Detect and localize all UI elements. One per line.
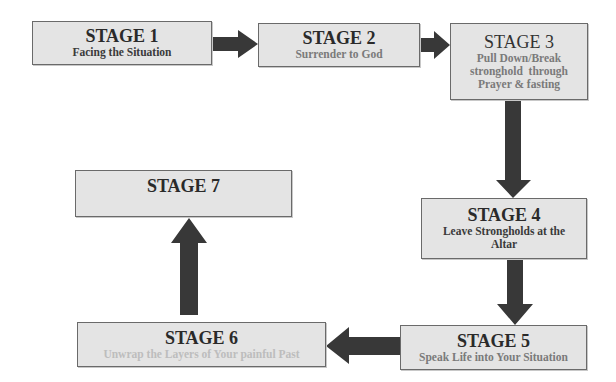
stage-4-title: STAGE 4 <box>467 206 540 225</box>
stage-1-subtitle: Facing the Situation <box>72 46 171 59</box>
stage-3-box: STAGE 3 Pull Down/Break stronghold throu… <box>450 23 588 100</box>
stage-2-title: STAGE 2 <box>302 29 375 48</box>
stage-2-subtitle: Surrender to God <box>295 48 382 61</box>
stage-5-box: STAGE 5 Speak Life into Your Situation <box>400 325 587 370</box>
stage-7-title: STAGE 7 <box>147 177 220 196</box>
arrow-left-icon <box>326 327 400 364</box>
arrow-down-icon <box>496 100 531 198</box>
stage-3-title: STAGE 3 <box>484 33 554 52</box>
stage-3-subtitle-line-2: stronghold through <box>470 65 568 78</box>
stage-4-box: STAGE 4 Leave Strongholds at the Altar <box>421 198 587 259</box>
stage-4-subtitle-line-1: Leave Strongholds at the <box>443 225 565 238</box>
arrow-up-icon <box>171 218 207 315</box>
arrow-right-icon <box>420 31 450 59</box>
stage-2-box: STAGE 2 Surrender to God <box>258 23 420 67</box>
stage-6-subtitle: Unwrap the Layers of Your painful Past <box>103 348 299 361</box>
stage-4-subtitle-line-2: Altar <box>491 238 517 251</box>
stage-1-title: STAGE 1 <box>85 27 158 46</box>
stage-6-box: STAGE 6 Unwrap the Layers of Your painfu… <box>77 322 326 367</box>
stage-3-subtitle-line-1: Pull Down/Break <box>477 52 561 65</box>
stage-3-subtitle-line-3: Prayer & fasting <box>478 78 560 91</box>
arrow-down-icon <box>497 259 533 325</box>
stage-6-title: STAGE 6 <box>165 329 238 348</box>
stage-7-box: STAGE 7 <box>75 170 292 217</box>
stage-5-subtitle: Speak Life into Your Situation <box>419 351 568 364</box>
arrow-right-icon <box>212 30 258 58</box>
stage-5-title: STAGE 5 <box>457 332 530 351</box>
stage-1-box: STAGE 1 Facing the Situation <box>32 21 212 65</box>
